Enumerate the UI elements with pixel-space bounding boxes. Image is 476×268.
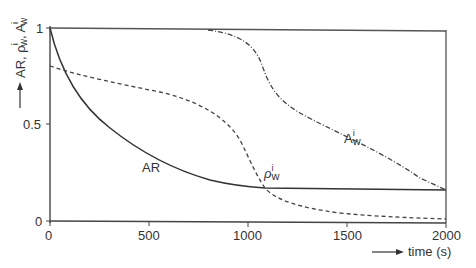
series-ar [50,28,446,190]
x-tick-label: 1500 [333,228,362,243]
label-a: Aiw [344,128,361,147]
y-axis-label: AR, ρiw, Aiw [10,17,29,108]
chart: 1 0.5 0 0 500 1000 1500 2000 time (s) AR… [0,0,476,268]
y-tick-label: 1 [36,21,43,36]
series-rho [50,66,446,219]
svg-text:AR, ρiw, Aiw: AR, ρiw, Aiw [10,17,29,78]
x-tick-label: 2000 [432,228,461,243]
series-reference-line [50,28,446,31]
svg-text:time (s): time (s) [408,244,451,259]
arrow-right-icon [396,249,404,255]
y-tick-label: 0.5 [23,117,41,132]
arrow-up-icon [17,82,23,90]
x-tick-label: 0 [45,228,52,243]
label-rho: ρiw [263,163,279,182]
x-tick-label: 1000 [233,228,262,243]
series-a [208,30,446,190]
x-axis-label: time (s) [372,244,451,259]
label-ar: AR [142,160,160,175]
y-tick-label: 0 [35,214,42,229]
x-tick-label: 500 [138,228,160,243]
